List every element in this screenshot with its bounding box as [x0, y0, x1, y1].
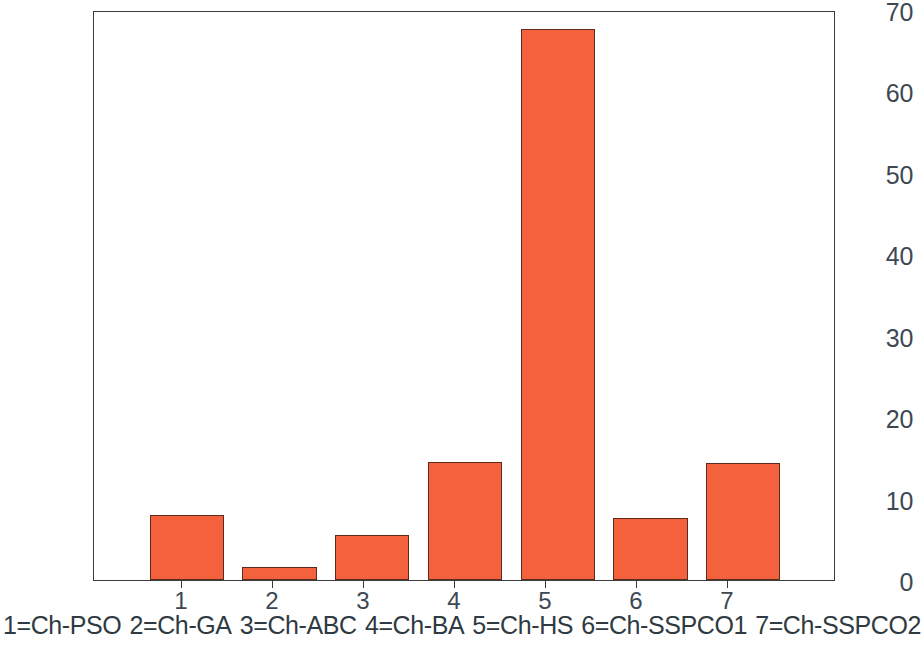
legend-item-5: 5=Ch-HS	[472, 612, 573, 640]
legend-item-1: 1=Ch-PSO	[3, 612, 121, 640]
y-axis-tick-label-text: 70	[886, 0, 924, 25]
y-axis-tick-label-text: 50	[886, 163, 924, 188]
legend-item-3: 3=Ch-ABC	[240, 612, 357, 640]
bar-5	[521, 29, 595, 580]
legend-item-2: 2=Ch-GA	[130, 612, 232, 640]
y-axis-tick-label-text: 10	[886, 489, 924, 514]
x-axis-tick-label: 7	[697, 588, 757, 613]
bar-4	[428, 462, 502, 580]
bar-chart-figure: 70 60 50 40 30 20 10 0 1 2 3 4 5 6 7 1=C…	[0, 0, 924, 647]
y-axis-tick-label-text: 60	[886, 81, 924, 106]
x-axis-tick-label: 4	[424, 588, 484, 613]
legend-item-4: 4=Ch-BA	[365, 612, 464, 640]
y-axis-tick-label: 20	[840, 407, 924, 432]
y-axis-tick-label: 70	[840, 0, 924, 25]
x-axis-tick-label: 6	[606, 588, 666, 613]
x-axis-tick-label: 1	[151, 588, 211, 613]
y-axis-tick-label-text: 20	[886, 407, 924, 432]
y-axis-tick-label-text: 40	[886, 244, 924, 269]
x-axis-tick-label: 5	[515, 588, 575, 613]
legend-item-6: 6=Ch-SSPCO1	[581, 612, 747, 640]
y-axis-tick-label: 40	[840, 244, 924, 269]
y-axis-tick-label: 10	[840, 489, 924, 514]
x-axis-tick-label: 3	[333, 588, 393, 613]
bar-3	[335, 535, 409, 580]
category-legend: 1=Ch-PSO 2=Ch-GA 3=Ch-ABC 4=Ch-BA 5=Ch-H…	[0, 612, 924, 640]
y-axis-tick-label: 30	[840, 326, 924, 351]
bar-2	[242, 567, 316, 580]
legend-item-7: 7=Ch-SSPCO2	[755, 612, 921, 640]
y-axis-tick-label: 0	[840, 570, 924, 595]
bar-6	[613, 518, 687, 580]
x-axis-tick-label: 2	[242, 588, 302, 613]
y-axis-tick-label-text: 0	[899, 570, 924, 595]
plot-area	[93, 11, 835, 581]
bar-1	[150, 515, 224, 580]
y-axis-tick-label-text: 30	[886, 326, 924, 351]
y-axis-tick-label: 60	[840, 81, 924, 106]
bar-7	[706, 463, 780, 580]
y-axis-tick-label: 50	[840, 163, 924, 188]
